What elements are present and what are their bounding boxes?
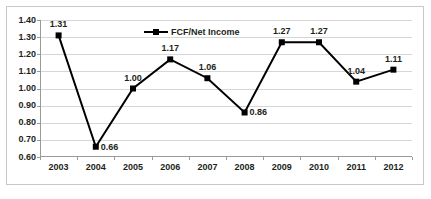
chart-container: 1.401.301.201.101.000.900.800.700.60 1.3… [0,0,431,199]
x-tick-label-2004: 2004 [86,162,106,172]
x-tick-label-2006: 2006 [160,162,180,172]
x-tick-label-2012: 2012 [383,162,403,172]
data-label-2006: 1.17 [161,44,179,53]
data-label-2007: 1.06 [199,63,217,72]
data-point-marker-2009 [279,39,285,45]
data-point-marker-2011 [353,79,359,85]
x-tick-label-2008: 2008 [235,162,255,172]
data-point-marker-2003 [56,32,62,38]
data-point-marker-2010 [316,39,322,45]
x-tick-label-2011: 2011 [346,162,366,172]
line-path-fcf-net-income [59,35,394,146]
legend-label-fcf-net-income: FCF/Net Income [171,27,240,37]
data-point-marker-2008 [242,109,248,115]
data-point-marker-2004 [93,144,99,150]
data-label-2010: 1.27 [310,27,328,36]
x-tick-label-2007: 2007 [197,162,217,172]
data-label-2009: 1.27 [273,27,291,36]
legend-marker-icon [144,27,168,37]
data-point-marker-2006 [167,56,173,62]
x-tick-label-2010: 2010 [309,162,329,172]
data-point-marker-2005 [130,86,136,92]
data-label-2005: 1.00 [124,74,142,83]
x-tick-label-2005: 2005 [123,162,143,172]
data-label-2008: 0.86 [250,108,268,117]
data-label-2011: 1.04 [347,67,365,76]
data-point-marker-2007 [204,75,210,81]
data-label-2012: 1.11 [385,55,402,64]
marker-group [56,32,397,149]
chart-legend: FCF/Net Income [144,25,240,39]
x-tick-label-2009: 2009 [272,162,292,172]
data-label-2003: 1.31 [50,20,68,29]
x-tick-label-2003: 2003 [49,162,69,172]
data-label-2004: 0.66 [101,143,119,152]
data-point-marker-2012 [390,67,396,73]
